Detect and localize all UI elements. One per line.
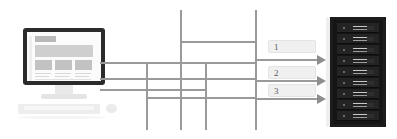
server-rack: [330, 17, 386, 127]
wireframe-column-block-1: [35, 60, 52, 70]
arrow-2-icon: [317, 76, 326, 86]
network-horizontal-line-3: [100, 78, 257, 80]
wireframe-sidebar: [29, 36, 32, 81]
rack-led-icon: [343, 82, 345, 84]
rack-stripe: [353, 103, 367, 104]
network-vertical-line-c: [146, 62, 148, 130]
rack-unit: [337, 78, 379, 88]
label-2-text: 2: [274, 67, 279, 79]
rack-stripe: [353, 59, 367, 60]
rack-stripe: [353, 114, 367, 115]
monitor-frame: [23, 28, 105, 85]
rack-bay: [367, 26, 374, 30]
rack-stripe: [353, 81, 367, 82]
rack-stripe: [353, 106, 367, 107]
rack-bay: [367, 59, 374, 63]
network-horizontal-line-4: [100, 89, 207, 91]
label-1-text: 1: [274, 41, 279, 53]
wireframe-text-line: [75, 76, 89, 77]
rack-bay: [367, 70, 374, 74]
rack-unit: [337, 34, 379, 44]
client-workstation: [14, 24, 124, 124]
rack-stripe: [353, 37, 367, 38]
rack-stripe: [353, 29, 367, 30]
network-output-line-3: [255, 98, 319, 100]
diagram-canvas: 1 2 3: [0, 0, 397, 139]
rack-led-icon: [343, 38, 345, 40]
label-2[interactable]: 2: [268, 66, 316, 79]
rack-led-icon: [343, 115, 345, 117]
rack-stripe: [353, 48, 367, 49]
wireframe-text-line: [55, 76, 69, 77]
rack-unit: [337, 111, 379, 121]
rack-led-icon: [343, 104, 345, 106]
label-3[interactable]: 3: [268, 84, 316, 97]
mouse: [106, 104, 117, 113]
rack-unit: [337, 89, 379, 99]
network-vertical-line-a: [180, 10, 182, 130]
network-horizontal-line-2: [119, 62, 257, 64]
rack-led-icon: [343, 60, 345, 62]
rack-stripe: [353, 73, 367, 74]
rack-led-icon: [343, 93, 345, 95]
rack-unit: [337, 67, 379, 77]
wireframe-column-block-3: [75, 60, 92, 70]
rack-unit: [337, 100, 379, 110]
rack-unit: [337, 56, 379, 66]
wireframe-logo-block: [35, 36, 56, 42]
wireframe-text-line: [35, 76, 49, 77]
rack-bay: [367, 81, 374, 85]
rack-led-icon: [343, 49, 345, 51]
rack-led-icon: [343, 71, 345, 73]
rack-stripe: [353, 62, 367, 63]
rack-stripe: [353, 84, 367, 85]
rack-bay: [367, 114, 374, 118]
rack-stripe: [353, 117, 367, 118]
wireframe-text-line: [35, 79, 91, 80]
rack-stripe: [353, 40, 367, 41]
rack-stripe: [353, 70, 367, 71]
arrow-3-icon: [317, 94, 326, 104]
wireframe-banner-block: [35, 45, 93, 57]
wireframe-text-line: [55, 73, 71, 74]
rack-stripe: [353, 26, 367, 27]
rack-stripe: [353, 51, 367, 52]
monitor-screen: [27, 32, 101, 81]
network-vertical-line-b: [255, 10, 257, 130]
arrow-1-icon: [317, 55, 326, 65]
rack-bay: [367, 48, 374, 52]
label-1[interactable]: 1: [268, 40, 316, 53]
network-horizontal-line-1: [180, 41, 257, 43]
wireframe-column-block-2: [55, 60, 72, 70]
desk-shadow: [18, 116, 106, 119]
wireframe-text-line: [35, 73, 51, 74]
rack-bay: [367, 92, 374, 96]
network-horizontal-line-5: [146, 97, 257, 99]
network-feeder-line-top: [100, 62, 120, 64]
rack-bay: [367, 103, 374, 107]
rack-stripe: [353, 92, 367, 93]
rack-led-icon: [343, 27, 345, 29]
network-vertical-line-d: [205, 62, 207, 130]
rack-bay: [367, 37, 374, 41]
rack-unit: [337, 45, 379, 55]
rack-unit: [337, 23, 379, 33]
keyboard: [18, 104, 100, 114]
monitor-base: [41, 94, 87, 99]
keyboard-keys: [24, 106, 94, 110]
label-3-text: 3: [274, 85, 279, 97]
network-output-line-2: [255, 80, 319, 82]
rack-stripe: [353, 95, 367, 96]
network-output-line-1: [255, 59, 319, 61]
wireframe-text-line: [75, 73, 91, 74]
